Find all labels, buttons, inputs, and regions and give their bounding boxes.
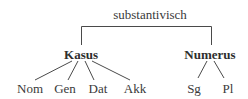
- kasus-node-label: Kasus: [64, 48, 98, 61]
- edge-numerus-pl: [214, 61, 224, 78]
- edge-kasus-nom: [35, 61, 72, 80]
- edge-kasus-dat: [85, 61, 94, 80]
- root-bracket: [82, 27, 212, 46]
- grammar-tree-diagram: substantivisch Kasus Numerus Nom Gen Dat…: [0, 0, 248, 99]
- edge-kasus-gen: [68, 61, 78, 80]
- leaf-sg: Sg: [187, 82, 201, 95]
- edge-numerus-sg: [198, 61, 207, 78]
- leaf-dat: Dat: [89, 82, 108, 95]
- root-node-label: substantivisch: [113, 8, 187, 21]
- leaf-nom: Nom: [17, 82, 43, 95]
- numerus-node-label: Numerus: [184, 48, 235, 61]
- leaf-akk: Akk: [124, 82, 146, 95]
- edge-kasus-akk: [92, 61, 130, 80]
- leaf-pl: Pl: [223, 82, 234, 95]
- leaf-gen: Gen: [54, 82, 76, 95]
